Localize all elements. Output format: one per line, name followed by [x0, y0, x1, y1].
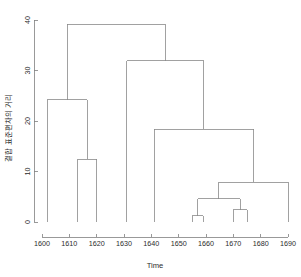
dendrogram-canvas: 010203040 160016101620163016401650166016… — [0, 0, 301, 277]
y-tick-label: 20 — [23, 117, 32, 125]
y-tick-label: 40 — [23, 16, 32, 24]
y-tick-label: 30 — [23, 67, 32, 75]
y-tick-label: 0 — [23, 220, 32, 224]
x-tick-label: 1620 — [89, 239, 105, 248]
x-axis — [42, 234, 288, 238]
x-tick-label: 1660 — [198, 239, 214, 248]
x-tick-label: 1650 — [171, 239, 187, 248]
y-axis-title: 결합 표준편차의 거리 — [4, 94, 13, 162]
y-tick-label: 10 — [23, 168, 32, 176]
x-tick-label: 1670 — [225, 239, 241, 248]
x-axis-title: Time — [147, 261, 164, 270]
x-tick-label: 1690 — [280, 239, 296, 248]
x-tick-label: 1640 — [143, 239, 159, 248]
x-tick-label: 1680 — [253, 239, 269, 248]
dendrogram-plot: 010203040 160016101620163016401650166016… — [0, 0, 301, 277]
x-tick-label: 1600 — [34, 239, 50, 248]
y-axis — [34, 20, 38, 222]
y-tick-labels: 010203040 — [23, 16, 32, 224]
x-tick-label: 1610 — [61, 239, 77, 248]
x-tick-label: 1630 — [116, 239, 132, 248]
dendrogram-tree — [47, 24, 288, 222]
x-tick-labels: 1600161016201630164016501660167016801690 — [34, 239, 296, 248]
